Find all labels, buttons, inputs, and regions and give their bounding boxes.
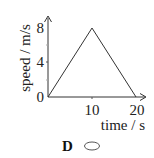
speed-time-graph: speed / m/s 8 4 0 10 20 time / s D [0, 0, 154, 158]
option-select-oval-icon[interactable] [85, 142, 100, 150]
x-axis-label: time / s [101, 117, 145, 133]
y-tick-label-4: 4 [37, 54, 45, 70]
y-tick-label-0: 0 [37, 89, 45, 105]
option-letter: D [62, 138, 73, 154]
speed-series-line [48, 28, 136, 97]
x-tick-label-10: 10 [85, 102, 100, 118]
y-axis-label: speed / m/s [17, 24, 33, 92]
x-tick-label-20: 20 [130, 102, 145, 118]
y-tick-label-8: 8 [37, 20, 45, 36]
